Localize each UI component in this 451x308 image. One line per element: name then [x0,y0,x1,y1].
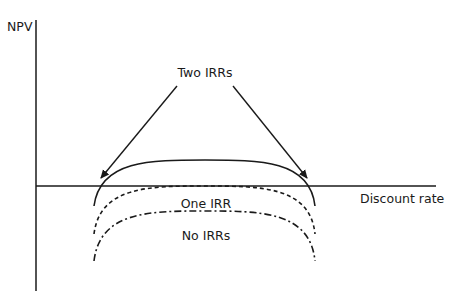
y-axis-label: NPV [7,19,33,34]
one-irr-label: One IRR [181,196,232,211]
two-irrs-label: Two IRRs [177,65,233,80]
x-axis-label: Discount rate [360,191,445,206]
npv-irr-diagram: NPV Discount rate Two IRRs One IRR No IR… [0,0,451,308]
no-irrs-label: No IRRs [182,228,231,243]
